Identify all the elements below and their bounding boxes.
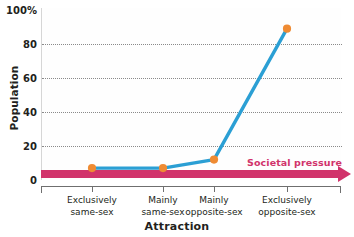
data-point-2 [210,156,218,164]
series-markers [88,25,291,173]
x-label-exclusively-opposite-sex: Exclusively opposite-sex [239,195,335,218]
x-tick-4 [287,186,288,192]
x-axis-line [41,186,341,193]
data-point-3 [283,25,291,33]
data-point-0 [88,164,96,172]
x-tick-1 [92,186,93,192]
data-point-1 [159,164,167,172]
x-label-line1: Exclusively [239,195,335,207]
x-tick-3 [214,186,215,192]
series-line [92,29,287,168]
x-label-line2: opposite-sex [239,207,335,219]
chart-figure: Population 100% 80 60 40 20 0 Societal p… [0,0,354,237]
x-tick-2 [163,186,164,192]
x-axis-label: Attraction [0,220,354,233]
